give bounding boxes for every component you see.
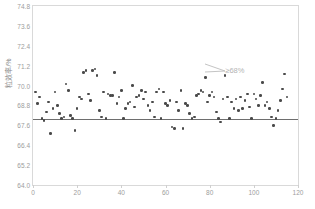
data-point: [147, 104, 150, 107]
y-tick-label: 64.0: [17, 182, 30, 189]
data-point: [98, 109, 101, 112]
data-point: [286, 96, 289, 99]
data-point: [250, 117, 253, 120]
x-tick-mark: [210, 185, 211, 188]
data-point: [217, 117, 220, 120]
data-point: [281, 88, 284, 91]
data-point: [202, 91, 205, 94]
data-point: [80, 98, 83, 101]
x-tick-label: 40: [118, 189, 125, 196]
data-point: [277, 109, 280, 112]
data-point: [131, 84, 134, 87]
data-point: [162, 91, 165, 94]
data-point: [193, 116, 196, 119]
data-point: [166, 104, 169, 107]
data-point: [49, 132, 52, 135]
data-point: [257, 104, 260, 107]
data-point: [237, 109, 240, 112]
data-point: [140, 89, 143, 92]
data-point: [188, 112, 191, 115]
data-point: [239, 96, 242, 99]
data-point: [36, 102, 39, 105]
data-point: [259, 94, 262, 97]
plot-area: 64.065.266.467.668.870.071.272.473.674.8…: [33, 6, 298, 185]
data-point: [228, 117, 231, 120]
data-point: [233, 107, 236, 110]
data-point: [230, 101, 233, 104]
data-point: [169, 99, 172, 102]
data-point: [264, 104, 267, 107]
data-point: [155, 91, 158, 94]
data-point: [261, 81, 264, 84]
data-point: [102, 91, 105, 94]
data-point: [241, 107, 244, 110]
y-tick-label: 74.8: [17, 3, 30, 10]
x-tick-label: 80: [206, 189, 213, 196]
y-tick-label: 67.6: [17, 122, 30, 129]
x-tick-label: 60: [162, 189, 169, 196]
x-tick-mark: [77, 185, 78, 188]
data-point: [248, 106, 251, 109]
data-point: [85, 69, 88, 72]
data-point: [69, 114, 72, 117]
data-point: [175, 101, 178, 104]
data-point: [204, 76, 207, 79]
data-point: [213, 96, 216, 99]
data-point: [226, 96, 229, 99]
data-point: [151, 101, 154, 104]
data-point: [283, 73, 286, 76]
y-tick-label: 66.4: [17, 142, 30, 149]
data-point: [76, 107, 79, 110]
data-point: [45, 111, 48, 114]
data-point: [197, 93, 200, 96]
y-tick-label: 70.0: [17, 82, 30, 89]
data-point: [268, 107, 271, 110]
data-point: [255, 98, 258, 101]
data-point: [58, 112, 61, 115]
data-point: [246, 93, 249, 96]
data-point: [219, 121, 222, 124]
data-point: [113, 71, 116, 74]
x-tick-label: 0: [31, 189, 35, 196]
data-point: [173, 127, 176, 130]
y-tick-label: 72.4: [17, 42, 30, 49]
data-point: [208, 94, 211, 97]
data-point: [122, 117, 125, 120]
y-tick-label: 68.8: [17, 102, 30, 109]
data-point: [52, 107, 55, 110]
data-point: [144, 91, 147, 94]
data-point: [47, 101, 50, 104]
data-point: [279, 99, 282, 102]
data-point: [124, 107, 127, 110]
data-point: [67, 89, 70, 92]
data-point: [87, 93, 90, 96]
data-point: [56, 104, 59, 107]
data-point: [149, 109, 152, 112]
data-point: [235, 98, 238, 101]
data-point: [186, 104, 189, 107]
data-point: [215, 111, 218, 114]
plot-frame: 64.065.266.467.668.870.071.272.473.674.8…: [32, 5, 299, 186]
data-point: [94, 68, 97, 71]
threshold-annotation: ≥68%: [225, 66, 244, 75]
y-tick-label: 73.6: [17, 22, 30, 29]
data-point: [142, 98, 145, 101]
data-point: [105, 117, 108, 120]
data-point: [138, 94, 141, 97]
data-point: [133, 106, 136, 109]
data-point: [211, 91, 214, 94]
data-point: [65, 83, 68, 86]
x-tick-mark: [166, 185, 167, 188]
y-tick-label: 71.2: [17, 62, 30, 69]
data-point: [222, 98, 225, 101]
y-axis-title: 粒效率/%: [3, 43, 13, 103]
data-point: [54, 91, 57, 94]
data-point: [266, 101, 269, 104]
data-point: [158, 88, 161, 91]
x-tick-mark: [121, 185, 122, 188]
data-point: [111, 94, 114, 97]
x-tick-label: 20: [74, 189, 81, 196]
data-point: [206, 101, 209, 104]
data-point: [34, 91, 37, 94]
x-tick-label: 100: [248, 189, 259, 196]
